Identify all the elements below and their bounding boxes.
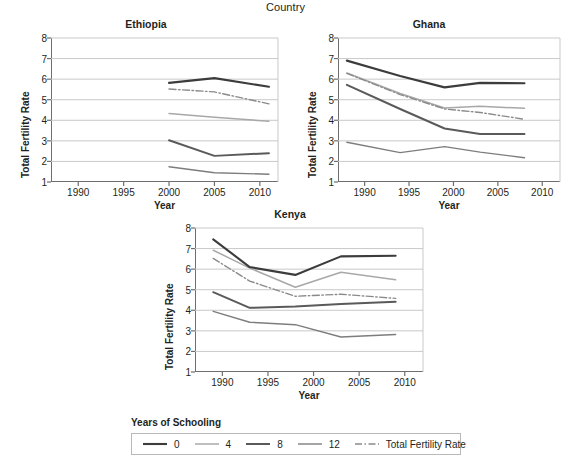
y-tick-label: 7 (328, 53, 334, 64)
y-tick-label: 4 (328, 115, 334, 126)
panel-title-ghana: Ghana (293, 18, 565, 30)
x-tick-label: 1990 (354, 187, 376, 198)
y-axis-label-ethiopia: Total Fertility Rate (20, 92, 31, 179)
y-tick-label: 8 (185, 223, 191, 234)
panel-title-ethiopia: Ethiopia (6, 18, 286, 30)
chart-page: Country Ethiopia Total Fertility Rate 12… (0, 0, 571, 462)
legend: 04812Total Fertility Rate (131, 433, 461, 455)
y-tick-label: 7 (185, 243, 191, 254)
panel-ethiopia: Ethiopia Total Fertility Rate 1234567819… (6, 18, 286, 208)
y-tick-label: 1 (185, 367, 191, 378)
plot-area-ethiopia: 1234567819901995200020052010 (51, 38, 278, 182)
y-tick-label: 6 (328, 74, 334, 85)
series-line-4 (347, 73, 525, 108)
y-tick-label: 5 (185, 284, 191, 295)
x-tick-label: 1990 (211, 377, 233, 388)
y-tick-label: 6 (185, 264, 191, 275)
legend-item[interactable]: 4 (194, 439, 232, 450)
x-tick-label: 2005 (348, 377, 370, 388)
chart-svg (195, 228, 423, 372)
y-axis-label-ghana: Total Fertility Rate (307, 92, 318, 179)
legend-heading: Years of Schooling (131, 417, 221, 428)
legend-swatch-icon (297, 439, 323, 449)
legend-item[interactable]: 8 (245, 439, 283, 450)
y-tick-label: 1 (328, 177, 334, 188)
y-tick-label: 3 (185, 325, 191, 336)
x-tick-label: 1995 (113, 187, 135, 198)
x-tick-label: 2005 (487, 187, 509, 198)
panel-title-kenya: Kenya (150, 208, 430, 220)
x-tick-label: 2000 (158, 187, 180, 198)
series-line-8 (213, 292, 395, 308)
legend-label: 12 (329, 439, 340, 450)
series-line-12 (213, 311, 395, 337)
y-tick-label: 3 (41, 135, 47, 146)
x-axis-label-kenya: Year (195, 390, 423, 401)
x-tick-label: 1995 (257, 377, 279, 388)
legend-item[interactable]: Total Fertility Rate (354, 439, 466, 450)
x-tick-label: 2010 (249, 187, 271, 198)
series-line-12 (347, 142, 525, 157)
legend-swatch-icon (354, 439, 380, 449)
y-tick-label: 7 (41, 53, 47, 64)
series-line-total-fertility-rate (169, 89, 269, 104)
plot-area-kenya: 1234567819901995200020052010 (195, 228, 423, 372)
legend-swatch-icon (194, 439, 220, 449)
legend-label: 4 (226, 439, 232, 450)
legend-item[interactable]: 12 (297, 439, 340, 450)
series-line-12 (169, 167, 269, 174)
legend-swatch-icon (245, 439, 271, 449)
legend-swatch-icon (142, 439, 168, 449)
x-tick-label: 2010 (394, 377, 416, 388)
legend-label: 8 (277, 439, 283, 450)
chart-svg (338, 38, 560, 182)
y-tick-label: 2 (185, 346, 191, 357)
x-tick-label: 2000 (442, 187, 464, 198)
page-title: Country (0, 1, 571, 13)
y-tick-label: 4 (41, 115, 47, 126)
x-tick-label: 2005 (203, 187, 225, 198)
plot-area-ghana: 1234567819901995200020052010 (338, 38, 560, 182)
legend-label: 0 (174, 439, 180, 450)
y-tick-label: 8 (41, 33, 47, 44)
x-tick-label: 2010 (531, 187, 553, 198)
y-tick-label: 8 (328, 33, 334, 44)
legend-item[interactable]: 0 (142, 439, 180, 450)
series-line-8 (169, 140, 269, 156)
legend-label: Total Fertility Rate (386, 439, 466, 450)
panel-kenya: Kenya Total Fertility Rate 1234567819901… (150, 208, 430, 403)
y-tick-label: 3 (328, 135, 334, 146)
y-tick-label: 1 (41, 177, 47, 188)
y-axis-label-kenya: Total Fertility Rate (164, 284, 175, 371)
y-tick-label: 6 (41, 74, 47, 85)
chart-svg (51, 38, 278, 182)
x-tick-label: 2000 (302, 377, 324, 388)
x-tick-label: 1990 (67, 187, 89, 198)
y-tick-label: 5 (328, 94, 334, 105)
y-tick-label: 2 (328, 156, 334, 167)
x-tick-label: 1995 (398, 187, 420, 198)
y-tick-label: 4 (185, 305, 191, 316)
y-tick-label: 2 (41, 156, 47, 167)
series-line-8 (347, 85, 525, 134)
panel-ghana: Ghana Total Fertility Rate 1234567819901… (293, 18, 565, 208)
y-tick-label: 5 (41, 94, 47, 105)
